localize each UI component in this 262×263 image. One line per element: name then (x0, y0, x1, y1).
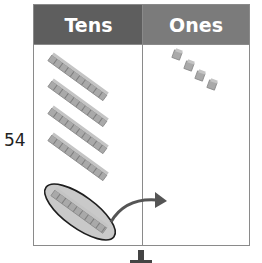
ones-cube (195, 69, 206, 81)
base-ten-blocks-illustration (0, 0, 262, 263)
down-arrow-icon (130, 250, 152, 263)
regroup-arrow-icon (111, 192, 167, 222)
ones-cubes (172, 48, 218, 90)
circled-tens-rod (37, 174, 124, 249)
ones-cube (172, 48, 183, 60)
ones-cube (207, 78, 218, 90)
ones-cube (184, 59, 195, 71)
